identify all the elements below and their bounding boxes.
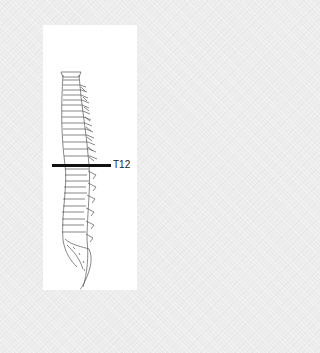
t12-label: T12 (113, 159, 130, 171)
spine-illustration (43, 25, 137, 290)
t12-level-line (52, 164, 111, 167)
illustration-panel: T12 (43, 25, 137, 290)
